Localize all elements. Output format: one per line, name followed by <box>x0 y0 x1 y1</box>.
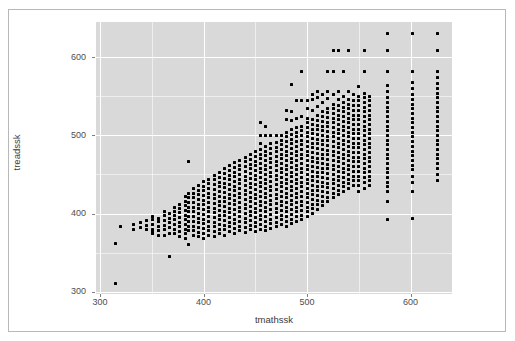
data-point <box>386 162 389 165</box>
data-point <box>280 218 283 221</box>
data-point <box>321 120 324 123</box>
data-point <box>213 202 216 205</box>
data-point <box>275 193 278 196</box>
data-point <box>249 228 252 231</box>
data-point <box>213 207 216 210</box>
data-point <box>386 96 389 99</box>
data-point <box>411 154 414 157</box>
data-point <box>300 176 303 179</box>
data-point <box>347 103 350 106</box>
x-tick-mark <box>307 294 308 297</box>
data-point <box>228 183 231 186</box>
data-point <box>316 185 319 188</box>
data-point <box>386 167 389 170</box>
data-point <box>357 179 360 182</box>
data-point <box>157 229 160 232</box>
data-point <box>269 222 272 225</box>
data-point <box>228 169 231 172</box>
data-point <box>436 110 439 113</box>
data-point <box>264 134 267 137</box>
data-point <box>411 112 414 115</box>
data-point <box>197 231 200 234</box>
data-point <box>321 176 324 179</box>
data-point <box>321 171 324 174</box>
data-point <box>192 215 195 218</box>
data-point <box>275 202 278 205</box>
data-point <box>157 234 160 237</box>
data-point <box>368 104 371 107</box>
data-point <box>218 200 221 203</box>
data-point <box>295 178 298 181</box>
data-point <box>306 107 309 110</box>
data-point <box>332 140 335 143</box>
data-point <box>311 98 314 101</box>
data-point <box>259 195 262 198</box>
data-point <box>357 109 360 112</box>
data-point <box>295 182 298 185</box>
data-point <box>368 156 371 159</box>
data-point <box>233 161 236 164</box>
data-point <box>259 218 262 221</box>
data-point <box>306 215 309 218</box>
data-point <box>386 157 389 160</box>
data-point <box>244 156 247 159</box>
data-point <box>213 183 216 186</box>
data-point <box>300 218 303 221</box>
data-point <box>352 184 355 187</box>
data-point <box>300 148 303 151</box>
data-point <box>321 162 324 165</box>
data-point <box>223 228 226 231</box>
data-point <box>316 142 319 145</box>
data-point <box>197 226 200 229</box>
gridline-horizontal <box>96 253 452 254</box>
data-point <box>295 154 298 157</box>
data-point <box>151 218 154 221</box>
data-point <box>218 204 221 207</box>
data-point <box>145 228 148 231</box>
data-point <box>163 224 166 227</box>
data-point <box>290 222 293 225</box>
data-point <box>352 142 355 145</box>
data-point <box>259 162 262 165</box>
data-point <box>192 187 195 190</box>
data-point <box>295 126 298 129</box>
data-point <box>238 192 241 195</box>
data-point <box>436 106 439 109</box>
data-point <box>342 70 345 73</box>
data-point <box>295 117 298 120</box>
data-point <box>316 128 319 131</box>
data-point <box>168 226 171 229</box>
data-point <box>321 110 324 113</box>
data-point <box>280 139 283 142</box>
data-point <box>306 99 309 102</box>
data-point <box>311 198 314 201</box>
data-point <box>326 111 329 114</box>
data-point <box>321 93 324 96</box>
data-point <box>363 115 366 118</box>
data-point <box>238 225 241 228</box>
data-point <box>197 217 200 220</box>
data-point <box>228 207 231 210</box>
data-point <box>228 211 231 214</box>
data-point <box>436 32 439 35</box>
data-point <box>244 221 247 224</box>
data-point <box>163 234 166 237</box>
data-point <box>187 160 190 163</box>
data-point <box>223 205 226 208</box>
data-point <box>363 167 366 170</box>
data-point <box>192 229 195 232</box>
gridline-horizontal <box>96 96 452 97</box>
data-point <box>264 173 267 176</box>
data-point <box>368 132 371 135</box>
data-point <box>202 199 205 202</box>
data-point <box>269 189 272 192</box>
data-point <box>168 221 171 224</box>
data-point <box>342 110 345 113</box>
data-point <box>238 201 241 204</box>
data-point <box>411 168 414 171</box>
data-point <box>326 139 329 142</box>
data-point <box>259 204 262 207</box>
data-point <box>259 157 262 160</box>
data-point <box>363 110 366 113</box>
data-point <box>145 219 148 222</box>
